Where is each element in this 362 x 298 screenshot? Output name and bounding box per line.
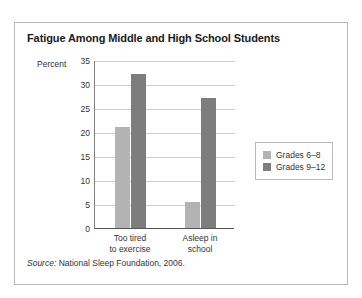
source-note: Source: National Sleep Foundation, 2006. xyxy=(27,258,185,268)
legend-label: Grades 6–8 xyxy=(276,150,320,160)
y-axis-title: Percent xyxy=(37,59,66,69)
y-axis-tick-label: 0 xyxy=(85,224,90,234)
y-axis-tick-label: 35 xyxy=(81,56,90,66)
bar xyxy=(185,202,200,228)
chart-legend: Grades 6–8Grades 9–12 xyxy=(255,142,333,180)
figure-card: Fatigue Among Middle and High School Stu… xyxy=(14,22,348,285)
source-text: National Sleep Foundation, 2006. xyxy=(59,258,185,268)
y-axis-tick-label: 20 xyxy=(81,128,90,138)
y-axis-tick-label: 15 xyxy=(81,152,90,162)
legend-swatch-icon xyxy=(263,163,271,171)
y-axis-tick-label: 30 xyxy=(81,80,90,90)
source-label: Source: xyxy=(27,258,56,268)
gridline xyxy=(95,61,235,62)
bar xyxy=(115,127,130,228)
page-title: Fatigue Among Middle and High School Stu… xyxy=(27,32,280,44)
x-axis-tick-label: Asleep inschool xyxy=(183,233,218,254)
gridline xyxy=(95,85,235,86)
bar xyxy=(131,74,146,228)
y-axis-tick-label: 10 xyxy=(81,176,90,186)
plot-area: 05101520253035 Too tiredto exerciseAslee… xyxy=(94,61,234,229)
y-axis-tick-label: 5 xyxy=(85,200,90,210)
y-axis-tick-label: 25 xyxy=(81,104,90,114)
legend-swatch-icon xyxy=(263,151,271,159)
legend-label: Grades 9–12 xyxy=(276,162,325,172)
legend-item: Grades 6–8 xyxy=(263,150,325,160)
bar xyxy=(201,98,216,228)
legend-item: Grades 9–12 xyxy=(263,162,325,172)
x-axis-tick-label: Too tiredto exercise xyxy=(109,233,150,254)
